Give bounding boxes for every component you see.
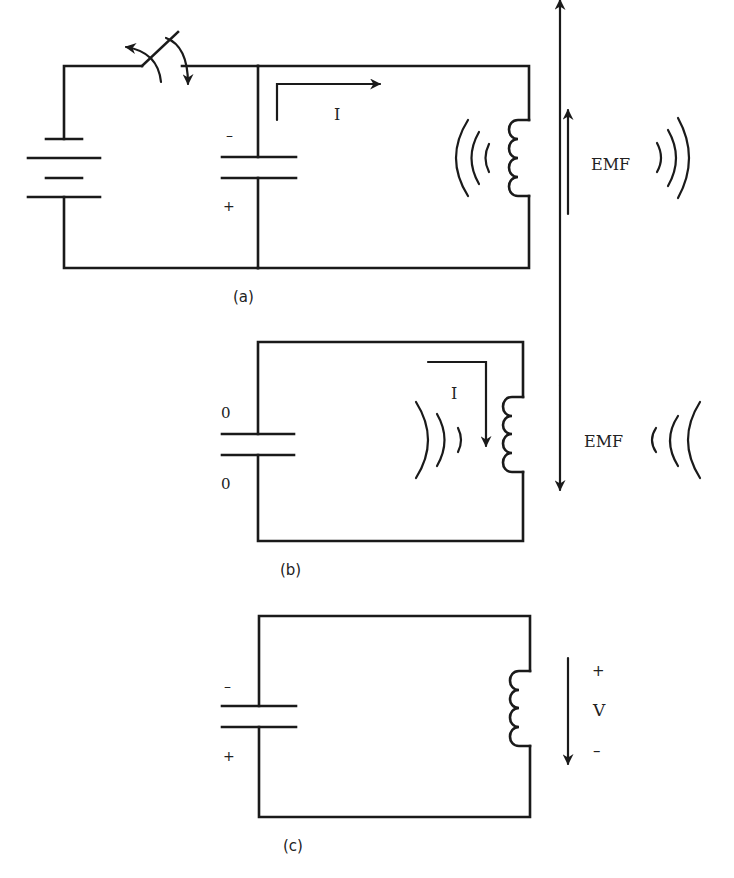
- emf-label: EMF: [584, 432, 623, 451]
- loop-wire-bottom: [258, 455, 523, 541]
- panel-c-caption: (c): [283, 837, 303, 855]
- emf-label: EMF: [591, 155, 630, 174]
- battery-wire: [64, 66, 258, 268]
- field-wave-left-icon: [416, 402, 461, 478]
- loop-wire-bottom: [258, 196, 529, 268]
- capacitor-top-label: 0: [221, 404, 231, 422]
- capacitor-icon: [222, 706, 296, 727]
- current-label: I: [334, 105, 340, 124]
- field-wave-right-icon: [652, 402, 700, 478]
- capacitor-bottom-sign: +: [223, 748, 235, 764]
- capacitor-top-sign: –: [226, 127, 233, 143]
- lc-circuit-diagram: – + I EMF (a) 0: [0, 0, 734, 878]
- inductor-icon: [503, 397, 523, 472]
- panel-a-caption: (a): [233, 288, 254, 306]
- voltage-label: V: [592, 700, 606, 720]
- loop-wire: [258, 342, 523, 434]
- field-wave-right-icon: [657, 118, 689, 198]
- panel-b: 0 0 I EMF (b): [221, 0, 700, 579]
- current-label: I: [451, 384, 457, 403]
- capacitor-top-sign: –: [224, 678, 231, 694]
- loop-wire-bottom: [259, 727, 530, 817]
- field-wave-left-icon: [456, 120, 489, 196]
- switch-icon[interactable]: [126, 32, 258, 84]
- panel-b-caption: (b): [280, 561, 301, 579]
- battery-icon: [28, 139, 100, 197]
- capacitor-bottom-label: 0: [221, 475, 231, 493]
- panel-a: – + I EMF (a): [28, 32, 689, 306]
- capacitor-icon: [222, 66, 296, 268]
- capacitor-icon: [222, 434, 294, 455]
- current-arrow-icon: [277, 84, 380, 120]
- voltage-bottom-sign: –: [593, 742, 601, 760]
- current-arrow-icon: [428, 362, 486, 446]
- inductor-icon: [510, 671, 530, 746]
- voltage-top-sign: +: [592, 662, 605, 680]
- panel-c: – + + V – (c): [222, 616, 606, 855]
- loop-wire: [258, 66, 529, 120]
- capacitor-bottom-sign: +: [223, 198, 235, 214]
- inductor-icon: [509, 120, 529, 196]
- loop-wire: [259, 616, 530, 706]
